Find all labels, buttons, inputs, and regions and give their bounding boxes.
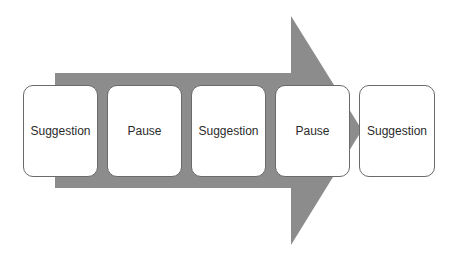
step-label: Suggestion [198,124,258,138]
step-label: Pause [295,124,329,138]
step-box-2: Pause [107,85,182,177]
step-label: Suggestion [30,124,90,138]
step-label: Pause [127,124,161,138]
step-box-4: Pause [275,85,350,177]
step-label: Suggestion [367,124,427,138]
step-box-5: Suggestion [359,85,435,177]
step-box-3: Suggestion [191,85,266,177]
step-box-1: Suggestion [23,85,98,177]
